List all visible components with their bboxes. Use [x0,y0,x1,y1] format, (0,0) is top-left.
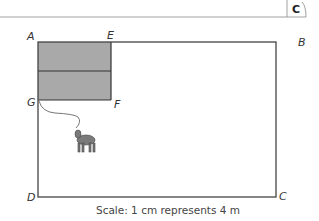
label-E: E [107,29,114,42]
diagram-canvas: C A E B G F D C Scale: 1 cm represents 4… [0,0,319,221]
scale-caption: Scale: 1 cm represents 4 m [96,204,240,216]
label-B: B [298,36,306,49]
label-F: F [114,98,121,111]
label-A: A [26,30,35,43]
label-G: G [27,96,36,109]
goat-icon [75,130,95,152]
tether-rope [39,101,80,128]
label-D: D [27,191,35,204]
section-badge: C [292,3,300,16]
label-C: C [279,190,287,203]
